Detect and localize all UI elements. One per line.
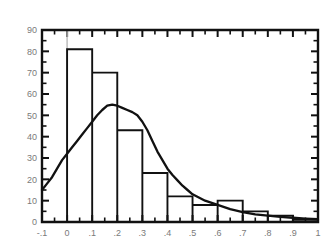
x-tick-label: .1 xyxy=(88,228,96,238)
y-tick-label: 90 xyxy=(27,25,37,35)
x-tick-label: 1 xyxy=(315,228,320,238)
y-tick-label: 20 xyxy=(27,175,37,185)
x-tick-label: .2 xyxy=(114,228,122,238)
y-tick-label: 70 xyxy=(27,68,37,78)
y-tick-label: 0 xyxy=(32,217,37,227)
histogram-chart: 0102030405060708090 -.10.1.2.3.4.5.6.7.8… xyxy=(0,0,335,245)
x-tick-label: -.1 xyxy=(37,228,48,238)
y-tick-label: 60 xyxy=(27,89,37,99)
y-tick-label: 40 xyxy=(27,132,37,142)
y-tick-label: 30 xyxy=(27,153,37,163)
x-tick-label: .3 xyxy=(139,228,147,238)
x-tick-label: .6 xyxy=(214,228,222,238)
x-tick-label: .8 xyxy=(264,228,272,238)
x-tick-label: 0 xyxy=(65,228,70,238)
y-tick-label: 50 xyxy=(27,111,37,121)
x-tick-label: .4 xyxy=(164,228,172,238)
chart-canvas: 0102030405060708090 -.10.1.2.3.4.5.6.7.8… xyxy=(0,0,335,245)
y-tick-label: 80 xyxy=(27,47,37,57)
x-tick-label: .9 xyxy=(289,228,297,238)
x-tick-label: .5 xyxy=(189,228,197,238)
x-tick-label: .7 xyxy=(239,228,247,238)
y-tick-label: 10 xyxy=(27,196,37,206)
